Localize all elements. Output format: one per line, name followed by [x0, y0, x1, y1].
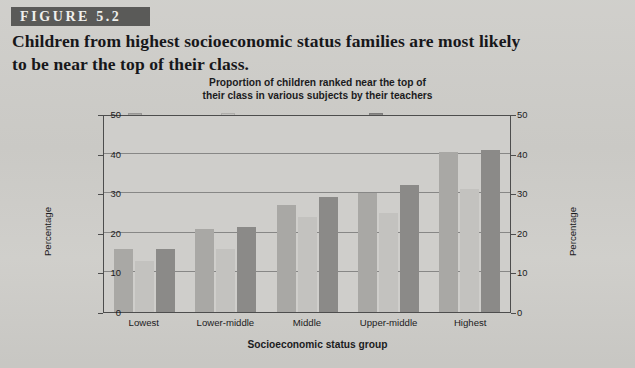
- plot-area: [103, 115, 511, 313]
- y-tick-mark-right: [511, 194, 516, 195]
- y-axis-title-left: Percentage: [42, 192, 53, 272]
- bar-group: [104, 116, 185, 312]
- y-tick-label-left: 30: [91, 189, 121, 198]
- bars-layer: [104, 116, 510, 312]
- y-tick-mark-right: [511, 313, 516, 314]
- chart-title-line-1: Proportion of children ranked near the t…: [0, 76, 635, 89]
- y-tick-label-right: 0: [517, 308, 547, 317]
- y-tick-mark-right: [511, 155, 516, 156]
- y-tick-label-left: 50: [91, 110, 121, 119]
- y-tick-mark-right: [511, 234, 516, 235]
- y-tick-mark-right: [511, 115, 516, 116]
- x-axis-category-label: Highest: [429, 317, 511, 328]
- bar-mathematics: [400, 185, 419, 312]
- y-tick-label-right: 40: [517, 150, 547, 159]
- bar-reading: [358, 193, 377, 312]
- bar-writing-composition: [135, 261, 154, 312]
- bar-group: [185, 116, 266, 312]
- bar-mathematics: [481, 150, 500, 312]
- bar-writing-composition: [379, 213, 398, 312]
- bar-mathematics: [156, 249, 175, 312]
- x-axis-category-label: Middle: [266, 317, 348, 328]
- bar-group: [429, 116, 510, 312]
- bar-writing-composition: [216, 249, 235, 312]
- y-tick-label-left: 0: [91, 308, 121, 317]
- y-tick-mark-left: [98, 234, 103, 235]
- x-axis-category-label: Lower-middle: [185, 317, 267, 328]
- x-axis-category-labels: LowestLower-middleMiddleUpper-middleHigh…: [103, 317, 511, 328]
- y-tick-label-right: 30: [517, 189, 547, 198]
- bar-mathematics: [319, 197, 338, 312]
- y-tick-mark-left: [98, 155, 103, 156]
- y-tick-label-left: 40: [91, 150, 121, 159]
- figure-caption-line-1: Children from highest socioeconomic stat…: [12, 30, 512, 53]
- figure-caption-line-2: to be near the top of their class.: [12, 53, 512, 76]
- y-tick-mark-left: [98, 194, 103, 195]
- bar-reading: [114, 249, 133, 312]
- x-axis-title: Socioeconomic status group: [0, 339, 635, 350]
- bar-reading: [277, 205, 296, 312]
- bar-reading: [195, 229, 214, 312]
- y-tick-mark-left: [98, 115, 103, 116]
- figure-root: FIGURE 5.2 Children from highest socioec…: [0, 0, 635, 368]
- x-axis-category-label: Lowest: [103, 317, 185, 328]
- figure-number-banner: FIGURE 5.2: [11, 7, 150, 26]
- figure-caption: Children from highest socioeconomic stat…: [12, 30, 512, 76]
- y-tick-label-left: 10: [91, 268, 121, 277]
- plot-wrapper: [103, 115, 511, 313]
- y-tick-label-right: 50: [517, 110, 547, 119]
- chart-container: Proportion of children ranked near the t…: [0, 76, 635, 368]
- y-tick-mark-right: [511, 273, 516, 274]
- x-axis-category-label: Upper-middle: [348, 317, 430, 328]
- y-tick-label-right: 20: [517, 229, 547, 238]
- bar-reading: [439, 152, 458, 312]
- y-tick-mark-left: [98, 313, 103, 314]
- chart-title-line-2: their class in various subjects by their…: [0, 89, 635, 102]
- y-axis-title-right: Percentage: [567, 192, 578, 272]
- bar-group: [348, 116, 429, 312]
- bar-group: [266, 116, 347, 312]
- bar-writing-composition: [298, 217, 317, 312]
- bar-writing-composition: [460, 189, 479, 312]
- chart-title: Proportion of children ranked near the t…: [0, 76, 635, 103]
- figure-number-label: FIGURE 5.2: [11, 10, 121, 24]
- y-tick-label-left: 20: [91, 229, 121, 238]
- y-tick-label-right: 10: [517, 268, 547, 277]
- y-tick-mark-left: [98, 273, 103, 274]
- bar-mathematics: [237, 227, 256, 312]
